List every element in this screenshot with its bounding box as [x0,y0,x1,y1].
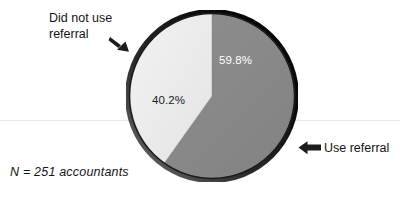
slice-value-did-not-use-referral: 40.2% [152,95,185,107]
sample-size-footnote: N = 251 accountants [10,165,129,179]
slice-value-use-referral: 59.8% [219,55,252,67]
arrow-down-right-icon [108,33,132,53]
arrow-left-icon [298,140,322,156]
pie-chart-figure: 59.8% 40.2% Did not use referral Use ref… [0,0,400,198]
callout-label-use-referral: Use referral [324,141,389,157]
callout-label-did-not-use-referral: Did not use referral [49,11,112,42]
